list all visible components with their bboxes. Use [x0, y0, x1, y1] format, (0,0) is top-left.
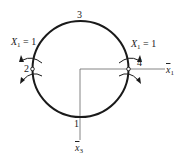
point-2-label: 2	[24, 64, 29, 74]
moment-arrow-right-lower	[119, 74, 141, 84]
point-4-label: 4	[137, 58, 142, 68]
hinge-2	[31, 67, 35, 71]
moment-arrow-left-upper	[19, 55, 42, 63]
x1-axis-label: x1	[166, 65, 174, 77]
x3-axis-label: x3	[75, 143, 83, 155]
load-label-left: X1 = 1	[11, 37, 36, 49]
hinge-4	[127, 67, 131, 71]
load-label-right: X1 = 1	[131, 39, 156, 51]
point-3-label: 3	[77, 10, 82, 20]
moment-arrow-left-lower	[20, 74, 42, 84]
point-1-label: 1	[74, 119, 79, 129]
ring-diagram	[0, 0, 183, 160]
